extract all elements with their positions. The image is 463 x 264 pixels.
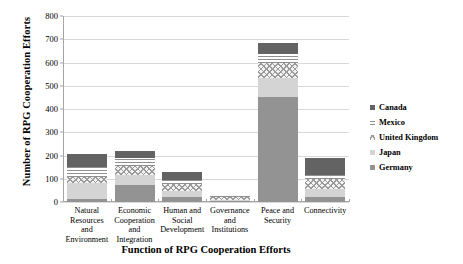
legend-label: Japan: [379, 148, 401, 157]
bar-segment-germany[interactable]: [210, 201, 250, 202]
plot-area: 0100200300400500600700800: [63, 16, 349, 202]
bar-segment-canada[interactable]: [115, 151, 155, 158]
x-axis-tick-mark: [63, 199, 64, 202]
bar-segment-canada[interactable]: [67, 154, 107, 167]
x-axis-category-label-line: Peace and: [255, 206, 301, 216]
x-axis-category-label: Connectivity: [301, 206, 349, 244]
x-axis-category-label-line: Natural: [64, 206, 110, 216]
x-axis-category-label-line: Cooperation: [112, 216, 158, 226]
y-axis-title: Number of RPG Cooperation Efforts: [21, 2, 32, 202]
bar-segment-japan[interactable]: [258, 78, 298, 98]
bar-series-group: [63, 16, 349, 202]
x-axis-tick-mark: [111, 199, 112, 202]
x-axis-category-label: Human andSocialDevelopment: [158, 206, 206, 244]
legend-label: Germany: [379, 163, 413, 172]
stacked-bar[interactable]: [210, 196, 250, 202]
x-axis-category-label-line: Connectivity: [302, 206, 348, 216]
x-axis-category-label: Peace andSecurity: [254, 206, 302, 244]
x-axis-category-label-line: Integration: [112, 235, 158, 245]
bar-segment-mexico[interactable]: [115, 158, 155, 166]
bar-segment-mexico[interactable]: [258, 54, 298, 62]
legend-label: United Kingdom: [379, 133, 438, 142]
x-axis-category-label: NaturalResources andEnvironment: [63, 206, 111, 244]
y-axis-tick-label: 700: [45, 34, 58, 44]
x-axis-category-label: EconomicCooperationandIntegration: [111, 206, 159, 244]
x-axis-category-label-line: Human and: [159, 206, 205, 216]
x-axis-tick-mark: [158, 199, 159, 202]
bar-segment-germany[interactable]: [67, 199, 107, 202]
legend-swatch-icon: [370, 120, 375, 125]
y-axis-tick-label: 0: [54, 197, 58, 207]
x-axis-category-label-line: Development: [159, 225, 205, 235]
y-axis-tick-label: 400: [45, 104, 58, 114]
legend-label: Canada: [379, 103, 407, 112]
x-axis-tick-mark: [254, 199, 255, 202]
bar-segment-germany[interactable]: [305, 197, 345, 202]
y-axis-tick-label: 100: [45, 174, 58, 184]
x-axis-category-label: GovernanceandInstitutions: [206, 206, 254, 244]
x-axis-category-label-line: Governance: [207, 206, 253, 216]
gridline: [63, 202, 349, 203]
bar-slot: [254, 16, 302, 202]
x-axis-category-label-line: Environment: [64, 235, 110, 245]
bar-segment-canada[interactable]: [162, 172, 202, 180]
legend-row[interactable]: United Kingdom: [370, 130, 462, 145]
bar-segment-canada[interactable]: [305, 158, 345, 174]
x-axis-category-label-line: and: [112, 225, 158, 235]
legend-swatch-icon: [370, 150, 375, 155]
x-axis-category-label-line: Security: [255, 216, 301, 226]
bar-segment-uk[interactable]: [305, 179, 345, 189]
bar-slot: [158, 16, 206, 202]
bar-segment-japan[interactable]: [305, 189, 345, 197]
legend-swatch-icon: [370, 105, 375, 110]
bar-slot: [111, 16, 159, 202]
y-axis-tick-label: 500: [45, 81, 58, 91]
bar-segment-uk[interactable]: [115, 166, 155, 175]
stacked-bar[interactable]: [67, 154, 107, 202]
y-axis-tick-label: 300: [45, 127, 58, 137]
bar-segment-germany[interactable]: [162, 197, 202, 202]
stacked-bar[interactable]: [305, 158, 345, 202]
stacked-bar[interactable]: [115, 151, 155, 202]
stacked-bar[interactable]: [162, 172, 202, 202]
bar-slot: [63, 16, 111, 202]
stacked-bar[interactable]: [258, 43, 298, 202]
x-axis-category-label-line: and: [207, 216, 253, 226]
y-axis-tick-label: 800: [45, 11, 58, 21]
bar-segment-uk[interactable]: [162, 184, 202, 191]
stacked-bar-chart: Number of RPG Cooperation Efforts 010020…: [0, 0, 463, 264]
bar-segment-japan[interactable]: [115, 175, 155, 185]
x-axis-tick-mark: [301, 199, 302, 202]
legend-label: Mexico: [379, 118, 405, 127]
bar-slot: [301, 16, 349, 202]
y-axis-tick-label: 200: [45, 151, 58, 161]
x-axis-category-label-line: Social: [159, 216, 205, 226]
y-axis-tick-label: 600: [45, 58, 58, 68]
bar-segment-canada[interactable]: [258, 43, 298, 55]
bar-segment-mexico[interactable]: [67, 167, 107, 177]
bar-segment-uk[interactable]: [258, 63, 298, 78]
x-axis-title: Function of RPG Cooperation Efforts: [63, 244, 349, 255]
bar-slot: [206, 16, 254, 202]
x-axis-tick-mark: [349, 199, 350, 202]
x-axis-category-label-line: Resources and: [64, 216, 110, 235]
x-axis-tick-mark: [206, 199, 207, 202]
legend-row[interactable]: Canada: [370, 100, 462, 115]
x-axis-category-label-line: Institutions: [207, 225, 253, 235]
bar-segment-germany[interactable]: [258, 97, 298, 202]
bar-segment-germany[interactable]: [115, 185, 155, 202]
legend-row[interactable]: Germany: [370, 160, 462, 175]
legend-row[interactable]: Mexico: [370, 115, 462, 130]
legend-row[interactable]: Japan: [370, 145, 462, 160]
x-axis-category-labels: NaturalResources andEnvironmentEconomicC…: [63, 206, 349, 244]
bar-segment-japan[interactable]: [67, 183, 107, 198]
legend-swatch-icon: [370, 135, 375, 140]
chart-legend: CanadaMexicoUnited KingdomJapanGermany: [370, 100, 462, 175]
x-axis-category-label-line: Economic: [112, 206, 158, 216]
legend-swatch-icon: [370, 165, 375, 170]
